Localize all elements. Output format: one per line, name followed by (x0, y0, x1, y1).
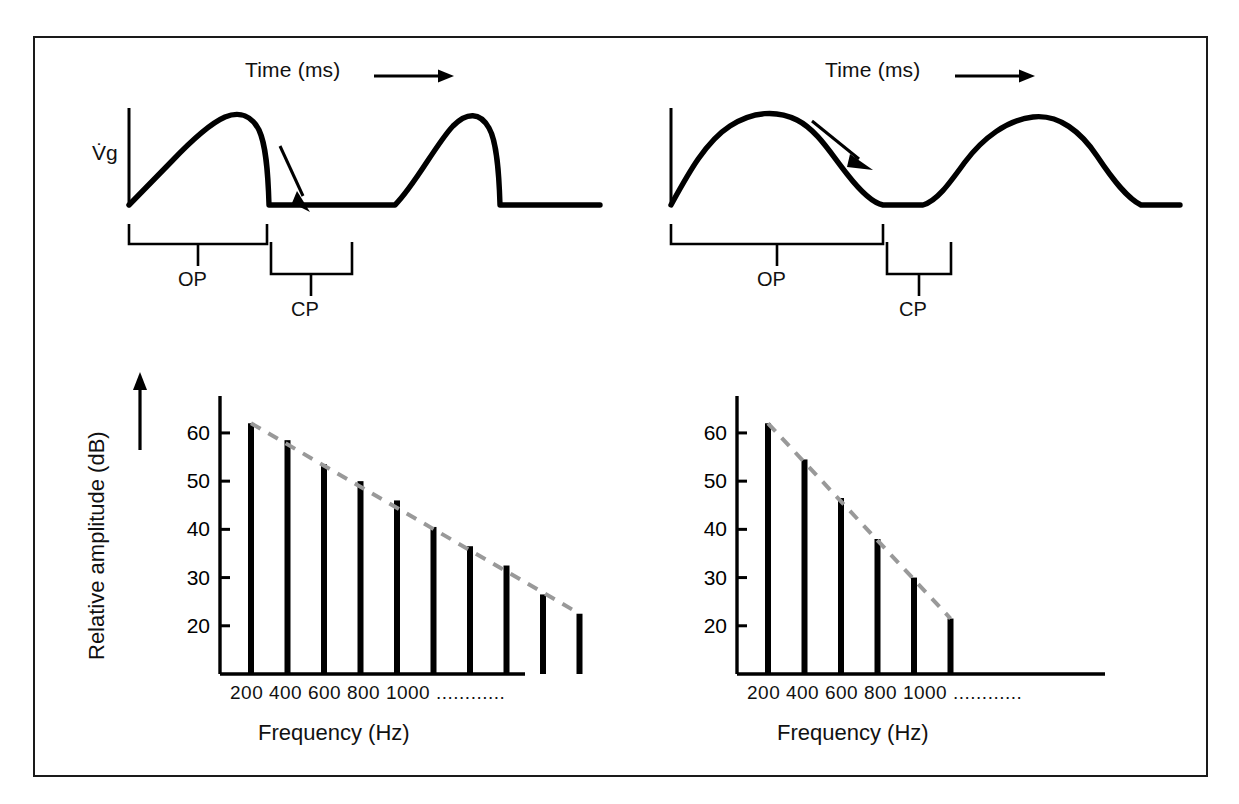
shallow-down-arrow-icon (812, 121, 873, 170)
spectrum-bar (802, 459, 808, 674)
spectrum-bar (765, 423, 771, 674)
waveform-panel-left: Time (ms) (70, 46, 630, 336)
spectrum-bar (540, 594, 546, 674)
spectrum-bar (285, 440, 291, 674)
y-tick-label: 20 (187, 614, 210, 637)
y-tick-label: 60 (704, 421, 727, 444)
closed-phase-bracket-right (887, 242, 951, 296)
right-arrow-icon (374, 70, 454, 83)
vg-axis-label-left: V̇g (92, 141, 118, 165)
spectrum-bar (467, 546, 473, 674)
open-phase-bracket-left (129, 224, 267, 266)
y-tick-label: 60 (187, 421, 210, 444)
xtick-values-left: 200 400 600 800 1000 ............ (230, 682, 505, 703)
xtick-values-right: 200 400 600 800 1000 ............ (747, 682, 1022, 703)
y-tick-label: 20 (704, 614, 727, 637)
spectrum-panel-right: 2030405060 200 400 600 800 1000 ........… (635, 338, 1205, 768)
closed-phase-label-right: CP (899, 298, 927, 321)
spectrum-bar (248, 423, 254, 674)
spectrum-bar (504, 566, 510, 674)
closed-phase-label-left: CP (291, 298, 319, 321)
glottal-flow-curve-right (671, 113, 1180, 205)
waveform-panel-right: Time (ms) (635, 46, 1205, 336)
spectral-tilt-trendline (768, 423, 951, 618)
spectrum-bar (321, 464, 327, 674)
spectrum-bar (358, 481, 364, 674)
y-tick-label: 30 (187, 566, 210, 589)
spectrum-bar (431, 527, 437, 674)
open-phase-bracket-right (671, 224, 883, 266)
spectral-tilt-trendline (251, 423, 580, 613)
open-phase-label-right: OP (757, 268, 786, 291)
x-axis-title-right: Frequency (Hz) (777, 720, 929, 746)
steep-down-arrow-icon (280, 146, 310, 212)
spectrum-bar (948, 619, 954, 674)
y-tick-label: 50 (187, 469, 210, 492)
waveform-right-graphic (635, 46, 1205, 336)
y-tick-label: 40 (704, 517, 727, 540)
spectrum-bar (394, 500, 400, 674)
closed-phase-bracket-left (271, 242, 352, 296)
x-axis-title-left: Frequency (Hz) (258, 720, 410, 746)
y-tick-label: 30 (704, 566, 727, 589)
waveform-left-graphic (70, 46, 630, 336)
spectrum-panel-left: 2030405060 Relative amplitude (dB) 200 4… (70, 338, 630, 768)
spectrum-bar (838, 498, 844, 674)
x-tick-labels-left: 200 400 600 800 1000 ............ (230, 682, 505, 704)
figure-frame: Time (ms) (33, 36, 1208, 777)
spectrum-bar (911, 578, 917, 674)
glottal-flow-curve-left (129, 115, 600, 205)
y-axis-title-left: Relative amplitude (dB) (84, 431, 110, 660)
spectrum-bar (875, 539, 881, 674)
up-arrow-icon (133, 372, 147, 450)
y-tick-label: 40 (187, 517, 210, 540)
x-tick-labels-right: 200 400 600 800 1000 ............ (747, 682, 1022, 704)
y-tick-label: 50 (704, 469, 727, 492)
spectrum-bar (577, 614, 583, 674)
right-arrow-icon (955, 70, 1035, 83)
open-phase-label-left: OP (178, 268, 207, 291)
